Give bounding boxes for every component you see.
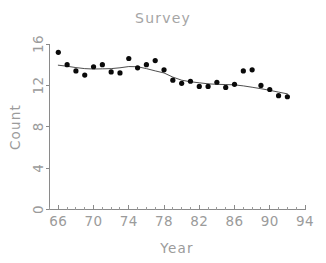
y-axis-label: Count — [7, 104, 23, 150]
data-point — [135, 65, 140, 70]
data-point — [276, 93, 281, 98]
x-tick-label-78: 78 — [155, 213, 173, 229]
data-point — [73, 68, 78, 73]
y-axis: 0481216 Count — [7, 35, 50, 214]
data-point — [285, 94, 290, 99]
y-tick-marks — [46, 44, 50, 210]
x-tick-label-86: 86 — [225, 213, 243, 229]
x-tick-label-70: 70 — [84, 213, 102, 229]
x-tick-label-66: 66 — [49, 213, 67, 229]
data-point — [250, 67, 255, 72]
y-tick-labels: 0481216 — [30, 35, 46, 214]
x-tick-label-94: 94 — [296, 213, 314, 229]
data-point — [241, 68, 246, 73]
y-tick-label-12: 12 — [30, 76, 46, 94]
y-tick-label-8: 8 — [30, 122, 46, 131]
data-point — [179, 81, 184, 86]
data-point — [170, 78, 175, 83]
data-point — [117, 70, 122, 75]
data-point — [56, 50, 61, 55]
data-point — [153, 58, 158, 63]
x-axis-label: Year — [159, 240, 193, 256]
data-points — [56, 50, 290, 100]
y-tick-label-16: 16 — [30, 35, 46, 53]
x-tick-label-82: 82 — [190, 213, 208, 229]
data-point — [214, 80, 219, 85]
x-tick-label-90: 90 — [261, 213, 279, 229]
data-point — [232, 82, 237, 87]
survey-scatter-chart: Survey 0481216 Count 6670747882869094 Ye… — [0, 0, 326, 263]
y-tick-label-0: 0 — [30, 205, 46, 214]
data-point — [126, 56, 131, 61]
data-point — [267, 87, 272, 92]
data-point — [109, 69, 114, 74]
data-point — [100, 62, 105, 67]
chart-container: Survey 0481216 Count 6670747882869094 Ye… — [0, 0, 326, 263]
data-point — [65, 62, 70, 67]
data-point — [91, 64, 96, 69]
data-point — [188, 79, 193, 84]
data-point — [197, 84, 202, 89]
x-tick-labels: 6670747882869094 — [49, 213, 314, 229]
data-point — [258, 83, 263, 88]
y-tick-label-4: 4 — [30, 164, 46, 173]
data-point — [144, 62, 149, 67]
data-point — [161, 67, 166, 72]
x-axis: 6670747882869094 Year — [49, 205, 314, 257]
chart-title: Survey — [135, 10, 191, 26]
data-point — [82, 72, 87, 77]
data-point — [205, 84, 210, 89]
x-tick-label-74: 74 — [120, 213, 138, 229]
data-point — [223, 85, 228, 90]
